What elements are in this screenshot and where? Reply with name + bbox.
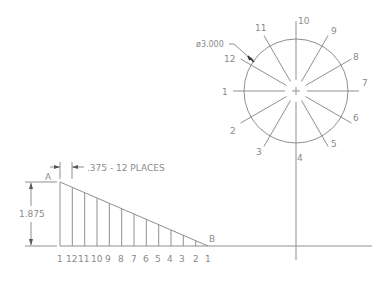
station-label: 12 (66, 254, 77, 264)
station-label: 3 (179, 254, 185, 264)
division-label-6: 6 (353, 113, 359, 123)
station-label: 5 (155, 254, 161, 264)
station-label: 9 (105, 254, 111, 264)
development-view: A B 1 12 11 10 9 8 7 6 5 4 3 2 1 1.875 (19, 162, 372, 264)
point-b-label: B (209, 234, 215, 244)
station-label: 2 (193, 254, 199, 264)
division-label-12: 12 (224, 54, 235, 64)
division-label-2: 2 (230, 126, 236, 136)
development-drawing: 10 9 8 7 6 5 4 3 2 1 12 11 ø3.000 (0, 0, 392, 283)
division-label-7: 7 (362, 78, 368, 88)
height-dimension: 1.875 (19, 182, 57, 246)
division-label-5: 5 (331, 139, 337, 149)
circle-view: 10 9 8 7 6 5 4 3 2 1 12 11 ø3.000 (196, 16, 368, 260)
station-label: 1 (205, 254, 211, 264)
arrowhead-up-icon (29, 183, 33, 190)
arrowhead-left-icon (72, 165, 78, 169)
division-label-8: 8 (353, 52, 359, 62)
height-dimension-text: 1.875 (19, 209, 45, 219)
arrowhead-down-icon (29, 239, 33, 246)
leader-arrowhead (248, 56, 254, 62)
spacing-dimension-text: .375 - 12 PLACES (87, 163, 165, 173)
station-label: 1 (57, 254, 63, 264)
diameter-callout-text: ø3.000 (196, 40, 224, 49)
division-label-3: 3 (256, 147, 262, 157)
division-label-1: 1 (222, 87, 228, 97)
point-a-label: A (45, 172, 52, 182)
station-label: 7 (131, 254, 137, 264)
division-label-9: 9 (331, 26, 337, 36)
spacing-dimension: .375 - 12 PLACES (50, 162, 165, 179)
station-label: 6 (143, 254, 149, 264)
station-label: 8 (118, 254, 124, 264)
station-label: 10 (91, 254, 103, 264)
division-label-11: 11 (255, 23, 266, 33)
division-label-4: 4 (297, 153, 303, 163)
station-label: 11 (78, 254, 89, 264)
arrowhead-right-icon (54, 165, 60, 169)
division-label-10: 10 (298, 16, 310, 26)
station-labels: 1 12 11 10 9 8 7 6 5 4 3 2 1 (57, 254, 211, 264)
station-label: 4 (167, 254, 173, 264)
